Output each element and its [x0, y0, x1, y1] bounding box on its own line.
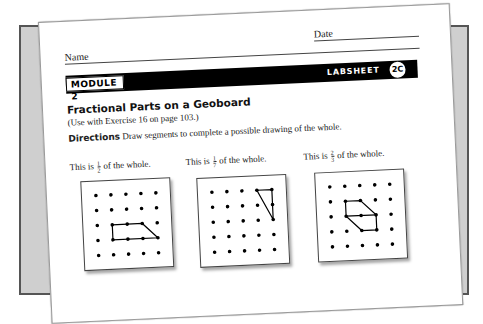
fraction: 12 — [97, 160, 101, 173]
prompt-3: This is 23 of the whole. — [303, 147, 385, 164]
directions-label: Directions — [68, 131, 120, 143]
name-label: Name — [64, 51, 88, 63]
geoboard-2[interactable] — [196, 174, 290, 268]
prompt-post: of the whole. — [103, 159, 151, 171]
prompt-1: This is 12 of the whole. — [69, 158, 151, 175]
shape-trapezoid — [112, 223, 158, 240]
fraction: 23 — [331, 150, 335, 163]
geoboard-grid — [315, 170, 407, 262]
labsheet-badge: 2C — [389, 61, 406, 78]
labsheet-label: LABSHEET — [327, 66, 380, 77]
shape-midline — [346, 215, 376, 216]
denominator: 3 — [331, 157, 334, 163]
prompt-post: of the whole. — [337, 148, 385, 160]
prompt-pre: This is — [185, 156, 210, 167]
fraction: 17 — [213, 155, 217, 168]
geoboard-3[interactable] — [314, 169, 408, 263]
module-label: MODULE 2 — [66, 75, 125, 92]
denominator: 7 — [213, 162, 216, 168]
worksheet-page: Name Date MODULE 2 LABSHEET 2C Fractiona… — [38, 3, 463, 323]
prompt-pre: This is — [69, 161, 94, 172]
module-header-bar: MODULE 2 LABSHEET 2C — [65, 60, 417, 94]
prompt-post: of the whole. — [219, 153, 267, 165]
directions-text: Draw segments to complete a possible dra… — [122, 121, 342, 141]
peg-dots — [210, 188, 276, 254]
prompt-pre: This is — [303, 151, 328, 162]
geoboard-grid — [81, 178, 173, 270]
geoboard-grid — [197, 175, 289, 267]
denominator: 2 — [97, 167, 100, 173]
date-label: Date — [314, 28, 333, 40]
prompt-2: This is 17 of the whole. — [185, 153, 267, 170]
geoboard-1[interactable] — [80, 177, 174, 271]
shape-triangle — [257, 190, 273, 221]
